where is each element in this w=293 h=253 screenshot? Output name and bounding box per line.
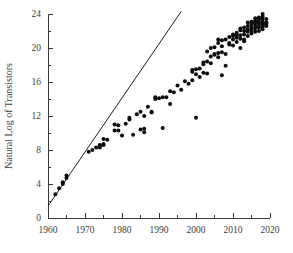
data-point — [194, 116, 198, 120]
data-point — [102, 137, 106, 141]
data-point — [231, 43, 235, 47]
data-point — [194, 72, 198, 76]
data-point — [220, 44, 224, 48]
data-point — [213, 45, 217, 49]
data-point — [201, 71, 205, 75]
data-point — [113, 123, 117, 127]
data-point — [261, 15, 265, 19]
y-axis-title-text: Natural Log of Transistors — [3, 63, 14, 169]
data-point — [220, 73, 224, 77]
data-point — [53, 192, 57, 196]
data-point — [124, 122, 128, 126]
data-point — [135, 112, 139, 116]
data-point — [146, 105, 150, 109]
data-point — [172, 90, 176, 94]
data-point — [187, 82, 191, 86]
figure-container: 196019701980199020002010202004812162024 … — [0, 0, 293, 253]
data-point — [142, 114, 146, 118]
y-axis-title: Natural Log of Transistors — [3, 63, 14, 169]
data-point — [213, 52, 217, 56]
data-point — [257, 29, 261, 33]
data-point — [194, 67, 198, 71]
x-tick-label: 2020 — [261, 225, 280, 235]
data-point — [150, 111, 154, 115]
data-point — [65, 174, 69, 178]
x-tick-label: 1970 — [76, 225, 95, 235]
data-point — [216, 55, 220, 59]
data-point — [238, 26, 242, 30]
y-tick-label: 8 — [36, 145, 41, 155]
data-point — [216, 38, 220, 42]
x-tick-label: 1990 — [150, 225, 169, 235]
scatter-plot: 196019701980199020002010202004812162024 … — [0, 0, 293, 253]
data-point — [257, 17, 261, 21]
data-point — [227, 35, 231, 39]
data-point — [216, 51, 220, 55]
data-point — [246, 21, 250, 25]
data-point — [250, 20, 254, 24]
data-point — [224, 38, 228, 42]
x-tick-label: 2000 — [187, 225, 206, 235]
data-point — [253, 21, 257, 25]
data-point — [264, 24, 268, 28]
data-point — [198, 66, 202, 70]
data-point — [176, 83, 180, 87]
data-point — [198, 75, 202, 79]
y-tick-label: 4 — [36, 179, 41, 189]
data-point — [116, 128, 120, 132]
data-point — [250, 32, 254, 36]
data-point — [102, 142, 106, 146]
data-point — [61, 180, 65, 184]
y-tick-label: 12 — [32, 111, 42, 121]
data-point — [90, 148, 94, 152]
x-tick-label: 1980 — [113, 225, 132, 235]
data-point — [209, 55, 213, 59]
data-point — [105, 138, 109, 142]
data-point — [253, 16, 257, 20]
data-point — [242, 26, 246, 30]
data-point — [157, 96, 161, 100]
data-point — [168, 89, 172, 93]
data-point — [205, 72, 209, 76]
data-point — [190, 78, 194, 82]
data-point — [94, 145, 98, 149]
y-tick-label: 20 — [32, 43, 42, 53]
data-point — [139, 110, 143, 114]
data-point — [220, 38, 224, 42]
data-point — [224, 64, 228, 68]
data-point — [235, 31, 239, 35]
data-point — [127, 117, 131, 121]
data-point — [205, 49, 209, 53]
data-point — [246, 34, 250, 38]
data-point — [153, 95, 157, 99]
data-point — [161, 95, 165, 99]
y-tick-label: 0 — [36, 213, 41, 223]
y-tick-label: 24 — [32, 9, 42, 19]
data-point — [264, 17, 268, 21]
data-points-group — [53, 12, 268, 196]
data-point — [190, 68, 194, 72]
data-point — [209, 46, 213, 50]
y-tick-label: 16 — [32, 77, 42, 87]
data-point — [209, 61, 213, 65]
data-point — [261, 27, 265, 31]
x-tick-label: 2010 — [224, 225, 243, 235]
data-point — [131, 133, 135, 137]
tick-labels-group: 196019701980199020002010202004812162024 — [32, 9, 280, 235]
data-point — [179, 88, 183, 92]
data-point — [57, 186, 61, 190]
x-tick-label: 1960 — [39, 225, 58, 235]
data-point — [238, 37, 242, 41]
data-point — [139, 128, 143, 132]
data-point — [120, 134, 124, 138]
data-point — [224, 52, 228, 56]
data-point — [98, 145, 102, 149]
data-point — [113, 128, 117, 132]
data-point — [183, 79, 187, 83]
data-point — [231, 32, 235, 36]
data-point — [168, 102, 172, 106]
data-point — [205, 60, 209, 64]
data-point — [235, 40, 239, 44]
data-point — [116, 123, 120, 127]
data-point — [87, 150, 91, 154]
